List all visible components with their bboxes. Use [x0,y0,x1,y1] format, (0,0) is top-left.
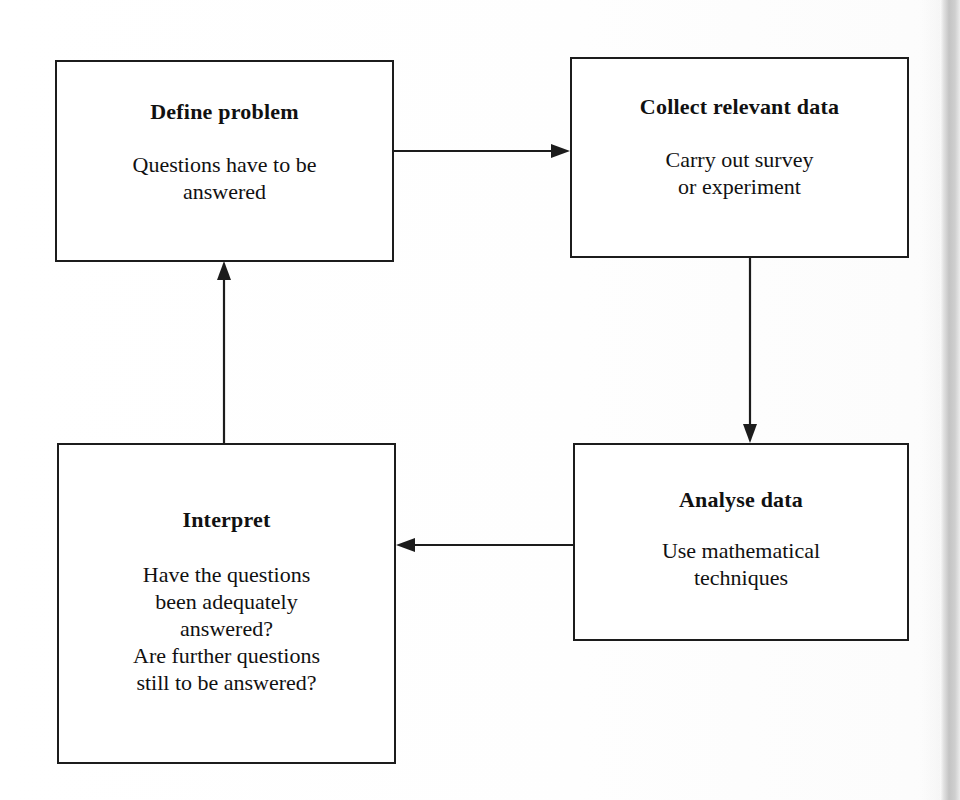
arrow-collect-to-analyse [743,258,757,443]
node-analyse-data[interactable]: Analyse data Use mathematical techniques [573,443,909,641]
node-collect-relevant-data-body: Carry out survey or experiment [572,147,907,201]
arrow-interpret-to-define [217,261,231,443]
scan-page-edge [940,0,960,800]
scan-edge-gradient [922,0,940,800]
node-analyse-data-title: Analyse data [575,488,907,512]
node-define-problem-body: Questions have to be answered [57,152,392,206]
diagram-canvas: Define problem Questions have to be answ… [0,0,960,800]
node-interpret-body: Have the questions been adequately answe… [59,562,394,696]
node-define-problem-title: Define problem [57,100,392,124]
arrow-analyse-to-interpret [396,538,573,552]
arrow-define-to-collect [394,144,570,158]
node-interpret[interactable]: Interpret Have the questions been adequa… [57,443,396,764]
node-interpret-title: Interpret [59,508,394,532]
node-collect-relevant-data[interactable]: Collect relevant data Carry out survey o… [570,57,909,258]
node-define-problem[interactable]: Define problem Questions have to be answ… [55,60,394,262]
node-collect-relevant-data-title: Collect relevant data [572,95,907,119]
node-analyse-data-body: Use mathematical techniques [575,538,907,592]
